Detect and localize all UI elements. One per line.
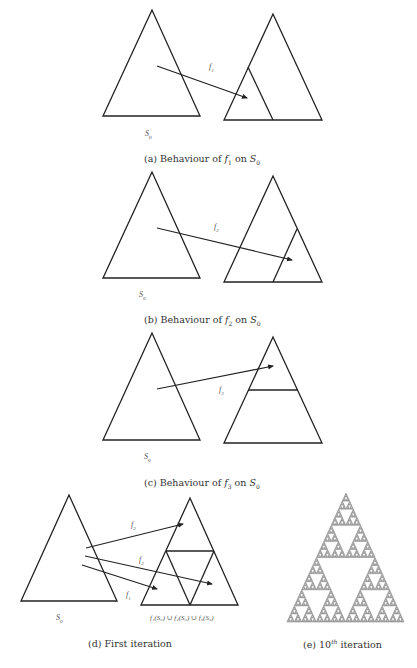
caption-e: (e) 10th iteration <box>303 638 382 650</box>
source-label-c: S0 <box>144 452 151 463</box>
caption-d: (d) First iteration <box>88 638 172 649</box>
target-triangle-b <box>224 176 322 282</box>
map-label-f3: f3 <box>219 385 224 396</box>
source-label-d: S0 <box>56 613 63 624</box>
source-triangle-a <box>103 10 200 116</box>
mapping-arrow-a <box>157 66 247 98</box>
mapping-arrow-b <box>157 228 292 260</box>
subdivision-line-a <box>248 67 273 120</box>
sierpinski-fractal <box>287 493 404 622</box>
caption-b: (b) Behaviour of f2 on S0 <box>144 314 261 327</box>
source-triangle-b <box>103 172 200 278</box>
source-triangle-d <box>21 495 117 601</box>
map-label-f1: f1 <box>126 590 131 601</box>
caption-c: (c) Behaviour of f3 on S0 <box>144 477 260 490</box>
subdivision-line-d <box>190 551 214 605</box>
union-label: f₁(S₀) ∪ f₂(S₀) ∪ f₃(S₀) <box>150 614 214 622</box>
map-label-f3: f3 <box>131 520 136 531</box>
map-label-f2: f2 <box>139 555 144 566</box>
map-label-f2: f2 <box>214 222 219 233</box>
map-label-f1: f1 <box>209 62 214 73</box>
source-triangle-c <box>103 333 200 440</box>
subdivision-line-b <box>273 229 297 282</box>
source-label-a: S0 <box>145 129 152 140</box>
source-label-b: S0 <box>139 290 146 301</box>
mapping-arrow-c <box>157 366 273 389</box>
target-triangle-a <box>224 14 322 120</box>
caption-a: (a) Behaviour of f1 on S0 <box>144 153 260 166</box>
diagram-canvas <box>0 0 417 668</box>
mapping-arrow-d <box>82 565 157 589</box>
mapping-arrow-d <box>85 556 212 584</box>
